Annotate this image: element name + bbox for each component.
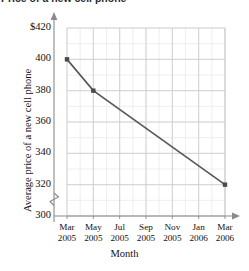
x-tick-year: 2006 — [208, 233, 242, 244]
major-gridlines — [67, 28, 225, 216]
y-axis-tick-label: 300 — [35, 209, 51, 220]
x-axis-tick-label: Mar2006 — [208, 222, 242, 243]
y-axis-tick-label: 320 — [35, 178, 51, 189]
y-axis-tick-label: 340 — [35, 146, 51, 157]
x-tick-month: Mar — [208, 222, 242, 233]
y-axis-tick-label: 360 — [35, 115, 51, 126]
y-axis-tick-label: 380 — [35, 84, 51, 95]
y-axis-tick-label: $420 — [30, 21, 51, 32]
x-axis-title: Month — [0, 248, 249, 259]
y-axis-tick-label: 400 — [35, 52, 51, 63]
y-axis — [51, 12, 58, 222]
